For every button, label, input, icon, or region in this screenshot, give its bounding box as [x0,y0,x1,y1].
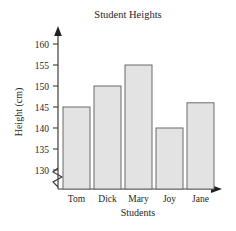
y-axis-title: Height (cm) [13,88,25,137]
x-tick-labels: Tom Dick Mary Joy Jane [68,194,209,204]
y-tick-label-145: 145 [35,103,50,113]
y-tick-labels: 160 155 150 145 140 135 130 [35,40,50,176]
chart-canvas: Student Heights 160 155 150 1 [0,0,236,231]
y-axis-arrow-icon [54,26,62,36]
y-tick-marks [53,44,58,170]
y-tick-label-140: 140 [35,124,50,134]
bar-joy[interactable] [156,128,183,189]
x-tick-label-mary: Mary [128,194,149,204]
y-tick-label-160: 160 [35,40,50,50]
y-tick-label-135: 135 [35,145,50,155]
bar-tom[interactable] [63,107,90,189]
chart-title: Student Heights [94,9,161,20]
y-tick-label-150: 150 [35,82,50,92]
bar-series [63,65,214,189]
x-tick-label-tom: Tom [68,194,86,204]
x-tick-label-dick: Dick [98,194,117,204]
x-tick-label-joy: Joy [163,194,176,204]
bar-chart-figure: Student Heights 160 155 150 1 [0,0,236,231]
bar-dick[interactable] [94,86,121,189]
y-tick-label-130: 130 [35,166,50,176]
y-tick-label-155: 155 [35,61,50,71]
x-tick-label-jane: Jane [192,194,209,204]
x-axis-title: Students [121,207,156,218]
bar-mary[interactable] [125,65,152,189]
bar-jane[interactable] [187,103,214,189]
